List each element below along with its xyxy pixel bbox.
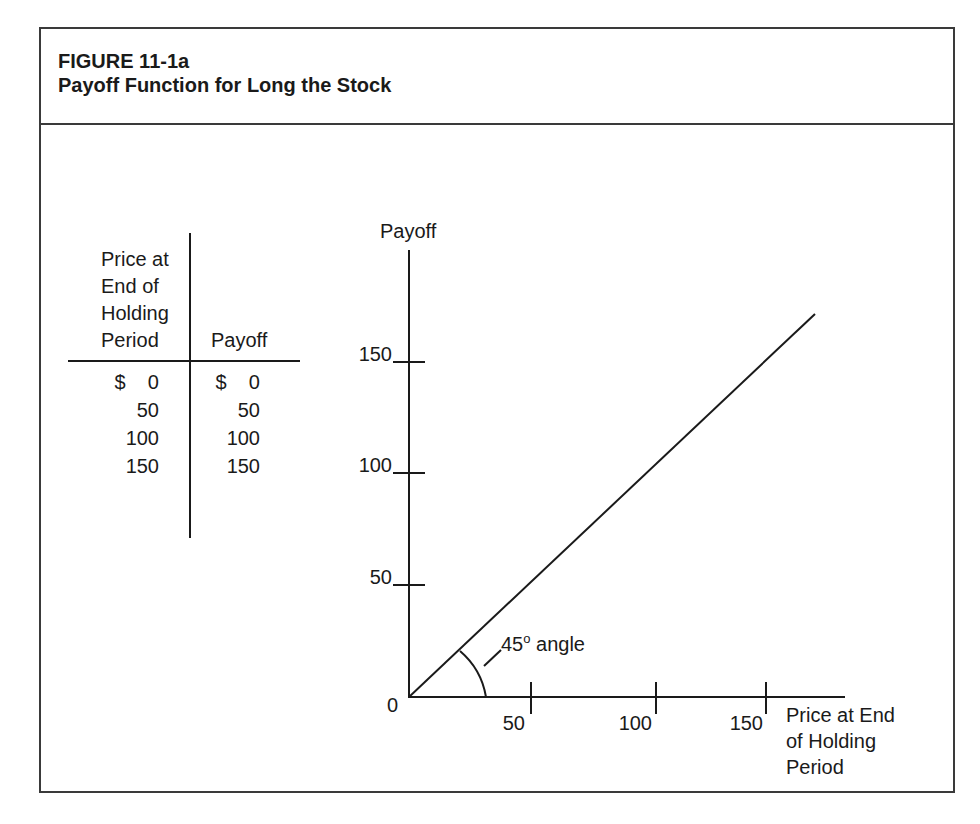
y-tick-label: 100 bbox=[359, 454, 392, 476]
table-price-column: $ 0 50 100 150 bbox=[115, 371, 159, 477]
y-axis-label: Payoff bbox=[380, 220, 437, 242]
table-header-left: Price at End of Holding Period bbox=[101, 248, 169, 351]
x-axis-label-line: of Holding bbox=[786, 730, 876, 752]
table-header-line: Price at bbox=[101, 248, 169, 270]
table-header-payoff: Payoff bbox=[211, 329, 268, 351]
table-cell-price: $ 0 bbox=[115, 371, 159, 393]
table-header-line: End of bbox=[101, 275, 159, 297]
table-header-line: Period bbox=[101, 329, 159, 351]
table-cell-payoff: 150 bbox=[227, 455, 260, 477]
table-cell-payoff: 100 bbox=[227, 427, 260, 449]
payoff-chart: Payoff 150 100 50 50 100 150 0 Price at bbox=[359, 220, 895, 778]
table-payoff-column: $ 0 50 100 150 bbox=[216, 371, 260, 477]
angle-leader-line bbox=[484, 650, 501, 666]
x-axis-label: Price at End of Holding Period bbox=[786, 704, 895, 778]
angle-word: angle bbox=[530, 633, 585, 655]
table-cell-price: 150 bbox=[126, 455, 159, 477]
angle-arc bbox=[460, 651, 486, 697]
payoff-line bbox=[409, 314, 815, 697]
figure-canvas: Price at End of Holding Period Payoff $ … bbox=[0, 0, 980, 824]
table-cell-price: 50 bbox=[137, 399, 159, 421]
angle-value: 45 bbox=[501, 633, 523, 655]
origin-label: 0 bbox=[387, 694, 398, 716]
table-cell-payoff: 50 bbox=[238, 399, 260, 421]
y-tick-label: 50 bbox=[370, 566, 392, 588]
y-tick-label: 150 bbox=[359, 343, 392, 365]
x-tick-labels: 50 100 150 bbox=[503, 712, 763, 734]
angle-annotation: 45o angle bbox=[501, 631, 585, 655]
degree-symbol: o bbox=[523, 631, 530, 646]
table-cell-price: 100 bbox=[126, 427, 159, 449]
x-tick-label: 50 bbox=[503, 712, 525, 734]
x-axis-label-line: Period bbox=[786, 756, 844, 778]
y-tick-labels: 150 100 50 bbox=[359, 343, 392, 588]
payoff-table: Price at End of Holding Period Payoff $ … bbox=[68, 233, 300, 538]
table-cell-payoff: $ 0 bbox=[216, 371, 260, 393]
x-tick-label: 150 bbox=[730, 712, 763, 734]
x-tick-label: 100 bbox=[619, 712, 652, 734]
x-axis-label-line: Price at End bbox=[786, 704, 895, 726]
table-header-line: Holding bbox=[101, 302, 169, 324]
